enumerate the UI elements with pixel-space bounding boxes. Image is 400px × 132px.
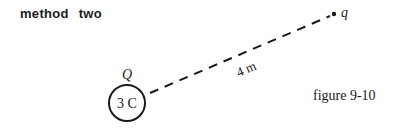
separation-line	[150, 16, 330, 93]
charge-diagram: 3 C Q q 4 m figure 9-10	[0, 0, 400, 132]
source-charge-label: Q	[122, 67, 132, 82]
test-charge-dot	[332, 12, 336, 16]
source-charge-value: 3 C	[117, 96, 137, 111]
figure-caption: figure 9-10	[313, 88, 376, 103]
distance-label: 4 m	[234, 58, 258, 80]
test-charge-label: q	[341, 5, 348, 20]
